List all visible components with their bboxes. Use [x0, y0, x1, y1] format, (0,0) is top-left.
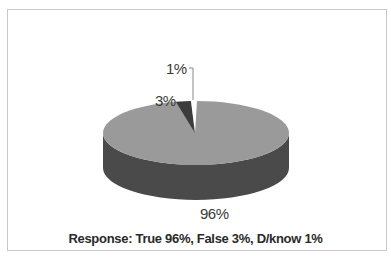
- leader-line-1pct: [189, 68, 193, 100]
- pie-chart: [0, 0, 391, 259]
- label-dknow: 1%: [166, 60, 187, 77]
- label-true: 96%: [200, 205, 229, 222]
- chart-caption: Response: True 96%, False 3%, D/know 1%: [0, 231, 391, 246]
- label-false: 3%: [155, 92, 176, 109]
